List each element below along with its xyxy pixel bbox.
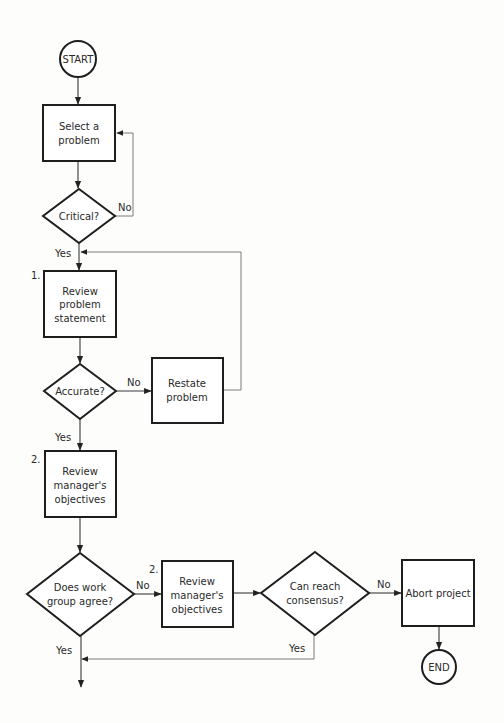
review-statement-line-1: Review	[62, 286, 98, 297]
select-problem-box	[43, 105, 115, 161]
agree-diamond	[27, 553, 134, 636]
accurate-label: Accurate?	[55, 386, 105, 397]
step-2-number-a: 2.	[31, 454, 41, 465]
consensus-line-2: consensus?	[286, 595, 344, 606]
review-statement-line-2: problem	[59, 299, 100, 310]
accurate-yes-label: Yes	[54, 432, 71, 443]
critical-label: Critical?	[59, 211, 99, 222]
step-2-number-b: 2.	[149, 564, 159, 575]
flowchart-canvas: START Select a problem Critical? No Yes …	[0, 0, 504, 723]
review-objectives-1-line-3: objectives	[55, 494, 106, 505]
start-node: START	[60, 41, 96, 77]
critical-yes-label: Yes	[54, 248, 71, 259]
accurate-no-label: No	[127, 377, 141, 388]
select-line-1: Select a	[59, 121, 99, 132]
review-statement-node: Review problem statement	[44, 271, 116, 337]
restate-line-2: problem	[166, 392, 207, 403]
agree-decision: Does work group agree?	[27, 553, 134, 636]
abort-project-node: Abort project	[402, 560, 474, 626]
start-label: START	[63, 54, 95, 65]
select-line-2: problem	[58, 135, 99, 146]
restate-line-1: Restate	[168, 378, 206, 389]
review-objectives-2-line-2: manager's	[171, 590, 224, 601]
review-statement-line-3: statement	[54, 313, 106, 324]
end-label: END	[428, 662, 450, 673]
agree-no-label: No	[136, 580, 150, 591]
agree-line-1: Does work	[54, 582, 107, 593]
consensus-no-label: No	[377, 579, 391, 590]
edge-consensus-yes	[82, 635, 314, 659]
restate-problem-box	[152, 358, 223, 423]
consensus-yes-label: Yes	[288, 643, 305, 654]
critical-no-label: No	[118, 202, 132, 213]
step-1-number: 1.	[31, 270, 41, 281]
consensus-diamond	[261, 552, 369, 635]
review-objectives-2-line-1: Review	[179, 576, 215, 587]
agree-line-2: group agree?	[47, 596, 113, 607]
consensus-line-1: Can reach	[290, 581, 341, 592]
review-objectives-2-line-3: objectives	[172, 604, 223, 615]
accurate-decision: Accurate?	[44, 364, 116, 419]
review-objectives-1-line-1: Review	[62, 466, 98, 477]
review-objectives-node-2: Review manager's objectives	[162, 561, 233, 627]
review-objectives-1-line-2: manager's	[54, 480, 107, 491]
review-objectives-node-1: Review manager's objectives	[45, 451, 116, 517]
abort-label: Abort project	[405, 588, 470, 599]
end-node: END	[422, 650, 456, 684]
consensus-decision: Can reach consensus?	[261, 552, 369, 635]
critical-decision: Critical?	[43, 189, 115, 243]
agree-yes-label: Yes	[55, 645, 72, 656]
restate-problem-node: Restate problem	[152, 358, 223, 423]
select-problem-node: Select a problem	[43, 105, 115, 161]
